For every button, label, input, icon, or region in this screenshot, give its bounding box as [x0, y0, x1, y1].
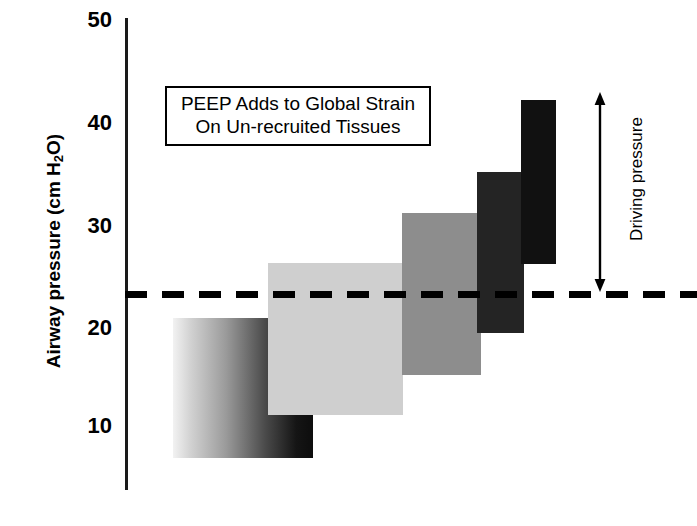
- bar-5: [521, 100, 556, 264]
- y-tick-40: 40: [54, 112, 112, 134]
- y-axis-tick-labels: 50 40 30 20 10: [50, 0, 112, 526]
- double-headed-arrow-icon: [590, 92, 610, 292]
- annotation-line-1: PEEP Adds to Global Strain: [175, 92, 421, 115]
- driving-pressure-label: Driving pressure: [627, 99, 647, 259]
- annotation-line-2: On Un-recruited Tissues: [175, 115, 421, 138]
- annotation-text-box: PEEP Adds to Global Strain On Un-recruit…: [165, 86, 431, 146]
- threshold-dashed-line: [125, 291, 697, 298]
- bar-2: [268, 263, 403, 415]
- airway-pressure-chart: Airway pressure (cm H2O) 50 40 30 20 10 …: [0, 0, 697, 526]
- y-tick-20: 20: [54, 317, 112, 339]
- y-tick-10: 10: [54, 415, 112, 437]
- y-tick-30: 30: [54, 215, 112, 237]
- driving-pressure-annotation: Driving pressure: [590, 92, 660, 292]
- y-tick-50: 50: [54, 9, 112, 31]
- bar-4: [477, 172, 524, 333]
